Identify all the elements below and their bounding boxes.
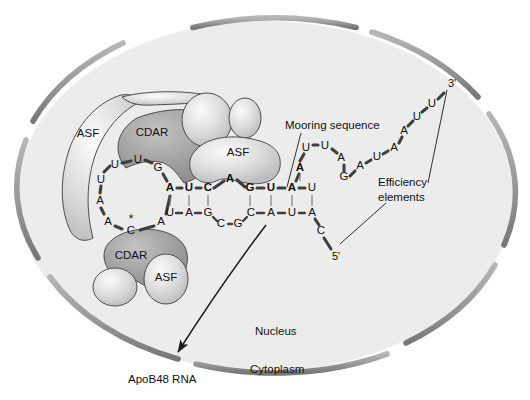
- base-3prime-tail-2: U: [373, 151, 381, 163]
- five-prime-label: 5': [332, 250, 340, 262]
- protein-asf-upper-right: [190, 137, 281, 184]
- label-cdar-upper: CDAR: [136, 127, 169, 139]
- edited-base-asterisk: *: [129, 212, 134, 226]
- protein-blob-lower-left: [93, 268, 137, 306]
- label-nucleus: Nucleus: [255, 325, 297, 337]
- base-bottom-5: G: [234, 218, 243, 230]
- label-cdar-lower: CDAR: [115, 250, 148, 262]
- base-3prime-tail-4: A: [400, 125, 408, 137]
- diagram-svg: [0, 0, 530, 400]
- base-top-6: U: [267, 182, 275, 194]
- base-top-5: G: [246, 182, 255, 194]
- base-bottom-9: A: [308, 207, 316, 219]
- base-top-1: A: [166, 182, 174, 194]
- base-loop-6-edited: C: [127, 225, 135, 237]
- base-mooring-5: G: [340, 171, 349, 183]
- label-cytoplasm: Cytoplasm: [250, 363, 304, 375]
- base-5prime-tail-1: C: [317, 225, 325, 237]
- label-mooring-sequence: Mooring sequence: [285, 119, 380, 131]
- base-bottom-2: A: [185, 207, 193, 219]
- base-top-2: U: [185, 182, 193, 194]
- base-mooring-2: U: [302, 142, 310, 154]
- label-asf-upper-left: ASF: [77, 128, 99, 140]
- base-loop-8: A: [96, 195, 104, 207]
- base-loop-7: A: [104, 216, 112, 228]
- base-bottom-3: G: [204, 207, 213, 219]
- base-bottom-1: U: [166, 207, 174, 219]
- base-3prime-tail-5: U: [413, 111, 421, 123]
- base-loop-3: G: [154, 162, 163, 174]
- base-bottom-7: A: [267, 207, 275, 219]
- base-top-3: C: [204, 182, 212, 194]
- base-3prime-tail-1: A: [356, 160, 364, 172]
- base-loop-5: A: [157, 216, 165, 228]
- base-top-7: A: [288, 182, 296, 194]
- label-efficiency-elements-line2: elements: [378, 191, 425, 203]
- base-3prime-tail-6: U: [428, 98, 436, 110]
- base-bottom-6: C: [247, 207, 255, 219]
- label-asf-lower: ASF: [155, 272, 177, 284]
- base-loop-1: U: [111, 159, 119, 171]
- base-top-4: A: [226, 173, 234, 185]
- base-loop-9: U: [97, 174, 105, 186]
- base-mooring-1: A: [296, 162, 304, 174]
- base-3prime-tail-3: A: [390, 142, 398, 154]
- base-mooring-3: U: [321, 140, 329, 152]
- protein-blob-upper-2: [229, 98, 261, 138]
- label-asf-upper-right: ASF: [227, 147, 249, 159]
- base-bottom-8: U: [288, 207, 296, 219]
- label-efficiency-elements-line1: Efficiency: [378, 176, 427, 188]
- three-prime-label: 3': [448, 77, 456, 89]
- base-mooring-4: A: [337, 152, 345, 164]
- base-bottom-4: C: [217, 218, 225, 230]
- base-loop-2: U: [134, 154, 142, 166]
- base-top-8: U: [308, 182, 316, 194]
- label-apob48-rna: ApoB48 RNA: [128, 373, 196, 385]
- figure-canvas: U U G A C A A U * A U C A G U A U U A G …: [0, 0, 530, 400]
